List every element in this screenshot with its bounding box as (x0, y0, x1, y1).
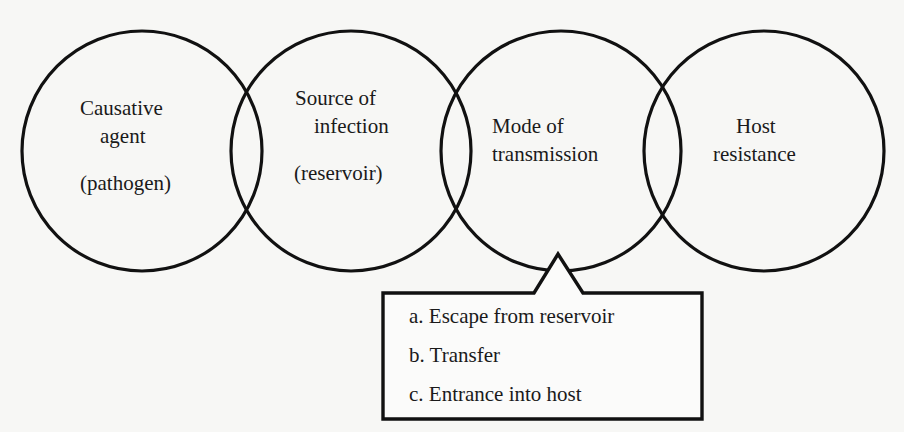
circle-3-line-2: transmission (492, 142, 599, 166)
circle-2-sub: (reservoir) (294, 161, 383, 185)
chain-of-infection-diagram: Causative agent (pathogen) Source of inf… (0, 0, 904, 432)
callout-item-escape: a. Escape from reservoir (409, 304, 614, 328)
circle-1-line-1: Causative (80, 96, 163, 120)
callout-item-transfer: b. Transfer (409, 343, 500, 367)
circle-4-line-1: Host (736, 114, 776, 138)
circle-4-line-2: resistance (713, 142, 796, 166)
circle-source-of-infection (231, 31, 471, 271)
circle-3-line-1: Mode of (492, 114, 564, 138)
callout-item-entrance: c. Entrance into host (409, 382, 582, 406)
circle-2-line-2: infection (314, 114, 389, 138)
circle-causative-agent (22, 31, 262, 271)
circle-2-line-1: Source of (295, 86, 376, 110)
circle-1-line-2: agent (100, 124, 146, 148)
circle-1-sub: (pathogen) (80, 171, 171, 195)
